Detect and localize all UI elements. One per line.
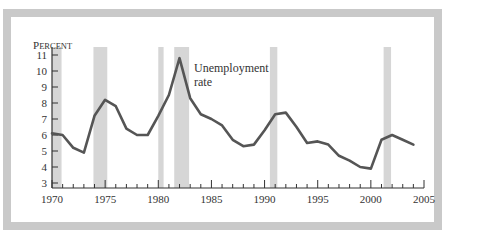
x-tick-label: 1985 bbox=[200, 193, 223, 205]
y-tick-label: 4 bbox=[42, 161, 48, 173]
x-tick-label: 1980 bbox=[147, 193, 170, 205]
annotation-unemployment: Unemployment bbox=[194, 61, 269, 75]
y-tick-label: 3 bbox=[42, 177, 48, 189]
x-tick-label: 1995 bbox=[307, 193, 330, 205]
x-tick-label: 2000 bbox=[360, 193, 383, 205]
recession-band bbox=[93, 47, 107, 188]
x-tick-label: 2005 bbox=[413, 193, 436, 205]
annotation-rate: rate bbox=[194, 75, 212, 89]
y-tick-label: 6 bbox=[42, 129, 48, 141]
y-tick-label: 9 bbox=[42, 81, 48, 93]
y-tick-label: 8 bbox=[42, 97, 48, 109]
x-tick-label: 1970 bbox=[41, 193, 64, 205]
recession-band bbox=[158, 47, 163, 188]
x-tick-label: 1990 bbox=[254, 193, 277, 205]
unemployment-line-chart: 3456789101119701975198019851990199520002… bbox=[0, 0, 486, 239]
x-tick-label: 1975 bbox=[94, 193, 117, 205]
recession-band bbox=[384, 47, 391, 188]
y-axis-label: PERCENT bbox=[33, 39, 73, 51]
y-tick-label: 7 bbox=[42, 113, 48, 125]
y-tick-label: 10 bbox=[36, 65, 48, 77]
y-tick-label: 5 bbox=[42, 145, 48, 157]
